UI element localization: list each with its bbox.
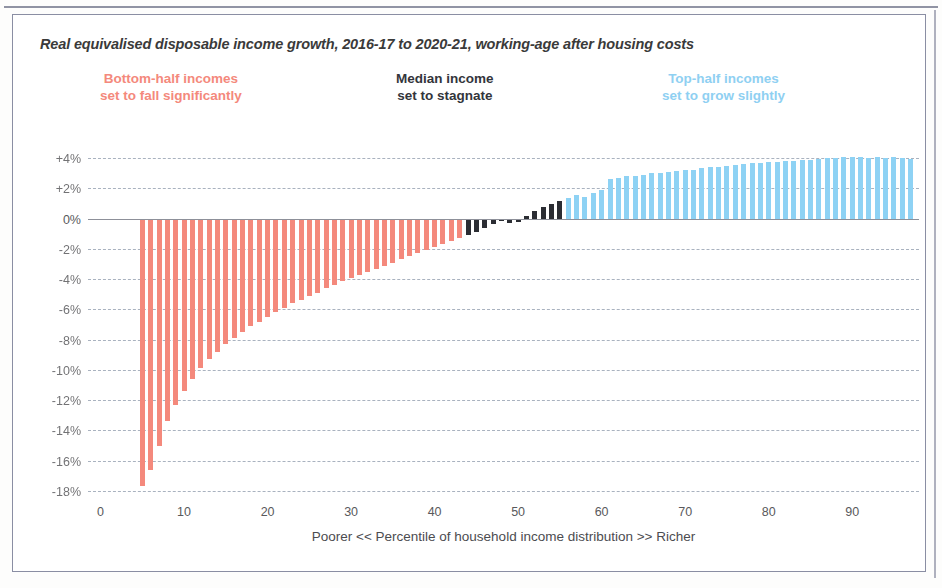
- plot-area: +4%+2%0%-2%-4%-6%-8%-10%-12%-14%-16%-18%…: [88, 140, 919, 500]
- bar: [324, 219, 329, 289]
- y-axis-tick-label: +2%: [56, 182, 81, 196]
- annotation-top-half-line1: Top-half incomes: [668, 71, 779, 86]
- page-frame-top-rule: [4, 6, 938, 8]
- bar: [290, 219, 295, 304]
- bar: [599, 190, 604, 219]
- bar: [332, 219, 337, 286]
- annotation-bottom-half-line1: Bottom-half incomes: [104, 71, 238, 86]
- bar: [850, 157, 855, 218]
- y-axis-tick-label: -16%: [52, 455, 81, 469]
- bar: [825, 158, 830, 219]
- bar: [307, 219, 312, 296]
- bar: [683, 170, 688, 218]
- bar: [691, 170, 696, 219]
- y-axis-tick-label: -14%: [52, 424, 81, 438]
- x-axis-tick-label: 0: [97, 505, 104, 519]
- bar: [541, 207, 546, 219]
- bar: [365, 219, 370, 272]
- bar: [207, 219, 212, 360]
- bar: [399, 219, 404, 260]
- bar: [791, 161, 796, 219]
- bar: [883, 158, 888, 219]
- x-axis-title: Poorer << Percentile of household income…: [88, 529, 919, 544]
- bar: [833, 158, 838, 219]
- bar: [257, 219, 262, 322]
- bar: [232, 219, 237, 339]
- y-axis-tick-label: -18%: [52, 485, 81, 499]
- annotation-median-line2: set to stagnate: [396, 87, 494, 104]
- income-growth-bar-chart: Real equivalised disposable income growt…: [12, 14, 924, 570]
- x-axis-line: [88, 219, 919, 220]
- bar: [557, 201, 562, 219]
- bar: [733, 165, 738, 219]
- bar: [658, 173, 663, 219]
- bar: [566, 198, 571, 219]
- page-frame-right-rule: [934, 10, 936, 578]
- bar: [750, 163, 755, 218]
- bar: [766, 162, 771, 218]
- bar: [415, 219, 420, 254]
- bar: [649, 173, 654, 218]
- bar: [340, 219, 345, 281]
- bar: [315, 219, 320, 293]
- y-axis-tick-label: -8%: [59, 334, 81, 348]
- bar: [549, 204, 554, 219]
- bar: [574, 195, 579, 219]
- annotation-median-line1: Median income: [396, 71, 494, 86]
- bar: [190, 219, 195, 379]
- y-axis-tick-label: 0%: [63, 213, 81, 227]
- bar: [891, 157, 896, 218]
- y-axis-tick-label: -6%: [59, 303, 81, 317]
- bar: [841, 157, 846, 218]
- bar: [716, 167, 721, 219]
- bar-series: [88, 140, 919, 500]
- bar: [474, 219, 479, 232]
- bar: [582, 197, 587, 219]
- bar: [449, 219, 454, 242]
- bar: [800, 160, 805, 218]
- bar: [466, 219, 471, 236]
- bar: [708, 167, 713, 218]
- bar: [908, 159, 913, 219]
- bar: [390, 219, 395, 263]
- bar: [608, 179, 613, 218]
- annotation-median: Median income set to stagnate: [396, 70, 494, 104]
- bar: [140, 219, 145, 487]
- x-axis-tick-label: 50: [511, 505, 525, 519]
- bar: [699, 168, 704, 219]
- annotation-top-half: Top-half incomes set to grow slightly: [662, 70, 785, 104]
- bar: [808, 160, 813, 219]
- bar: [875, 157, 880, 218]
- bar: [198, 219, 203, 369]
- bar: [457, 219, 462, 239]
- y-axis-tick-label: -4%: [59, 273, 81, 287]
- bar: [165, 219, 170, 422]
- bar: [775, 162, 780, 219]
- scanned-page: Real equivalised disposable income growt…: [0, 0, 942, 588]
- bar: [633, 176, 638, 219]
- bar: [349, 219, 354, 278]
- bar: [282, 219, 287, 308]
- x-axis-tick-label: 40: [428, 505, 442, 519]
- bar: [265, 219, 270, 317]
- x-axis-tick-label: 30: [344, 505, 358, 519]
- bar: [900, 158, 905, 219]
- bar: [440, 219, 445, 245]
- bar: [532, 211, 537, 219]
- bar: [182, 219, 187, 391]
- bar: [783, 161, 788, 219]
- bar: [741, 164, 746, 219]
- y-axis-tick-label: -2%: [59, 243, 81, 257]
- bar: [816, 159, 821, 219]
- bar: [173, 219, 178, 405]
- bar: [273, 219, 278, 313]
- x-axis-tick-label: 70: [678, 505, 692, 519]
- bar: [674, 171, 679, 219]
- annotation-bottom-half-line2: set to fall significantly: [100, 87, 242, 104]
- bar: [407, 219, 412, 257]
- x-axis-tick-label: 80: [762, 505, 776, 519]
- chart-title: Real equivalised disposable income growt…: [40, 36, 694, 52]
- y-axis-tick-label: +4%: [56, 152, 81, 166]
- bar: [299, 219, 304, 301]
- annotation-bottom-half: Bottom-half incomes set to fall signific…: [100, 70, 242, 104]
